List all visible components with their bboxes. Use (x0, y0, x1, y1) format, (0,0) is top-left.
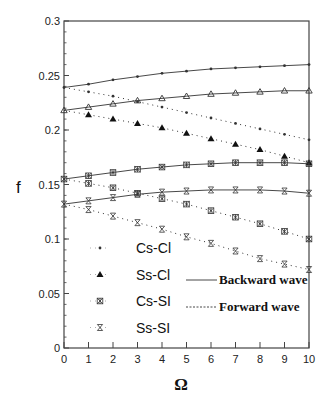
asterisk-box-marker-icon (208, 208, 214, 214)
hourglass-marker-icon (184, 234, 189, 240)
dot-marker-icon (185, 111, 188, 114)
asterisk-box-marker-icon (110, 185, 116, 191)
triangle-marker-icon (159, 124, 166, 130)
dot-marker-icon (283, 133, 286, 136)
asterisk-box-marker-icon (184, 201, 190, 207)
legend-label: Backward wave (219, 272, 308, 287)
dot-marker-icon (234, 122, 237, 125)
legend-item-backward-wave: Backward wave (186, 272, 308, 287)
dot-marker-icon (161, 72, 164, 75)
dot-marker-icon (283, 64, 286, 67)
x-tick-label: 7 (232, 353, 238, 365)
y-tick-label: 0.25 (39, 70, 60, 82)
series-cs-si-backward (61, 160, 312, 182)
triangle-marker-icon (208, 135, 215, 141)
triangle-marker-icon (97, 271, 104, 277)
series-layer (61, 63, 313, 272)
asterisk-box-marker-icon (97, 298, 103, 304)
legend-item-ss-cl: Ss-Cl (90, 267, 170, 283)
dot-marker-icon (87, 90, 90, 93)
series-ss-si-forward (64, 204, 312, 272)
dot-marker-icon (185, 70, 188, 73)
dot-marker-icon (234, 66, 237, 69)
dot-marker-icon (99, 247, 102, 250)
legend-item-cs-cl: Cs-Cl (90, 240, 171, 256)
x-tick-label: 6 (208, 353, 214, 365)
dot-marker-icon (161, 106, 164, 109)
y-tick-label: 0.15 (39, 179, 60, 191)
x-tick-label: 8 (257, 353, 263, 365)
legend-label: Ss-Cl (136, 267, 170, 283)
line-chart: 00.050.10.150.20.250.3 012345678910 Cs-C… (0, 0, 332, 408)
legend-label: Cs-SI (136, 293, 171, 309)
legend: Cs-ClSs-ClCs-SISs-SIBackward waveForward… (90, 240, 308, 336)
asterisk-box-marker-icon (306, 236, 312, 242)
legend-label: Forward wave (219, 299, 300, 314)
y-tick-label: 0 (54, 342, 60, 354)
y-tick-label: 0.2 (45, 124, 60, 136)
series-ss-cl-forward (64, 110, 313, 165)
dot-marker-icon (136, 75, 139, 78)
dot-marker-icon (87, 83, 90, 86)
series-cs-si-forward (64, 179, 312, 242)
x-tick-label: 4 (159, 353, 165, 365)
hourglass-marker-icon (159, 226, 164, 232)
dot-marker-icon (112, 95, 115, 98)
legend-label: Cs-Cl (136, 240, 171, 256)
triangle-marker-icon (85, 111, 92, 117)
triangle-marker-icon (134, 120, 141, 126)
hourglass-marker-icon (97, 325, 102, 331)
x-axis-label: Ω (174, 375, 188, 394)
triangle-marker-icon (183, 130, 190, 136)
dot-marker-icon (259, 65, 262, 68)
dot-marker-icon (210, 68, 213, 71)
dot-marker-icon (259, 128, 262, 131)
y-tick-label: 0.05 (39, 288, 60, 300)
y-tick-label: 0.3 (45, 15, 60, 27)
legend-item-cs-si: Cs-SI (90, 293, 171, 309)
triangle-marker-icon (257, 146, 264, 152)
hourglass-marker-icon (86, 207, 91, 213)
series-ss-cl-backward (61, 88, 312, 113)
triangle-marker-icon (232, 141, 239, 147)
dot-marker-icon (210, 117, 213, 120)
x-tick-label: 9 (281, 353, 287, 365)
triangle-marker-icon (281, 153, 288, 159)
x-axis: 012345678910 (61, 342, 315, 365)
hourglass-marker-icon (110, 213, 115, 219)
series-cs-cl-backward (63, 63, 311, 89)
triangle-open-marker-icon (281, 88, 287, 94)
hourglass-marker-icon (135, 220, 140, 226)
asterisk-box-marker-icon (282, 229, 288, 235)
x-tick-label: 10 (303, 353, 315, 365)
triangle-marker-icon (110, 116, 117, 122)
asterisk-box-marker-icon (257, 221, 263, 227)
asterisk-box-marker-icon (86, 181, 92, 187)
dot-marker-icon (308, 63, 311, 66)
x-tick-label: 1 (85, 353, 91, 365)
asterisk-box-marker-icon (159, 196, 165, 202)
hourglass-marker-icon (233, 248, 238, 254)
dot-marker-icon (112, 78, 115, 81)
y-axis-label: f (16, 178, 21, 197)
legend-item-forward-wave: Forward wave (186, 299, 300, 314)
x-tick-label: 2 (110, 353, 116, 365)
x-tick-label: 0 (61, 353, 67, 365)
x-tick-label: 3 (134, 353, 140, 365)
dot-marker-icon (308, 138, 311, 141)
y-tick-label: 0.1 (45, 233, 60, 245)
legend-item-ss-si: Ss-SI (90, 320, 170, 336)
legend-label: Ss-SI (136, 320, 170, 336)
x-tick-label: 5 (183, 353, 189, 365)
asterisk-box-marker-icon (233, 214, 239, 220)
